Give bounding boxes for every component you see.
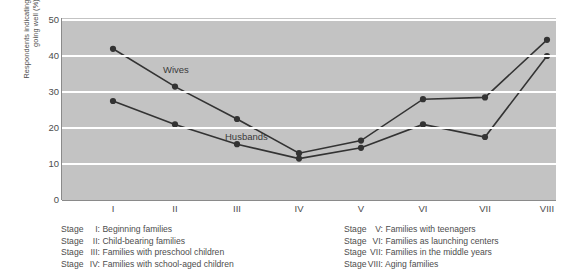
data-point-husbands-IV (296, 156, 302, 162)
y-axis-title-line1: Respondents indicating marriage (22, 0, 31, 79)
caption-line-II: StageII: Child-bearing families (61, 236, 234, 248)
gridline-20 (62, 127, 556, 129)
caption-column-left: StageI: Beginning familiesStageII: Child… (61, 224, 234, 270)
caption-stage-text: Aging families (383, 259, 438, 269)
data-point-wives-III (234, 116, 240, 122)
caption-stage-text: Beginning families (100, 224, 172, 234)
caption-stage-numeral: II: (78, 236, 100, 248)
caption-line-III: StageIII: Families with preschool childr… (61, 247, 234, 259)
caption-line-VI: StageVI: Families as launching centers (344, 236, 499, 248)
series-label-wives: Wives (163, 64, 189, 75)
data-point-wives-II (172, 84, 178, 90)
caption-line-IV: StageIV: Families with school-aged child… (61, 259, 234, 271)
data-point-wives-VIII (544, 37, 550, 43)
caption-stage-word: Stage (61, 259, 78, 271)
gridline-40 (62, 55, 556, 57)
x-tick-VIII: VIII (527, 203, 567, 214)
gridline-10 (62, 163, 556, 165)
caption-stage-word: Stage (344, 236, 361, 248)
data-point-wives-VII (482, 94, 488, 100)
chart-caption: StageI: Beginning familiesStageII: Child… (0, 224, 571, 278)
caption-stage-word: Stage (344, 247, 361, 259)
y-tick-30: 30 (37, 87, 59, 97)
caption-stage-word: Stage (61, 247, 78, 259)
data-point-wives-V (358, 138, 364, 144)
caption-stage-text: Families with school-aged children (100, 259, 234, 269)
gridline-30 (62, 91, 556, 93)
y-tick-20: 20 (37, 123, 59, 133)
caption-stage-word: Stage (344, 259, 361, 271)
y-tick-10: 10 (37, 159, 59, 169)
caption-column-right: StageV: Families with teenagersStageVI: … (344, 224, 499, 270)
x-tick-I: I (93, 203, 133, 214)
data-point-husbands-III (234, 141, 240, 147)
data-point-wives-I (110, 46, 116, 52)
caption-stage-numeral: VI: (361, 236, 383, 248)
data-point-wives-IV (296, 150, 302, 156)
y-tick-50: 50 (37, 15, 59, 25)
data-point-husbands-VII (482, 134, 488, 140)
caption-stage-text: Families as launching centers (383, 236, 499, 246)
caption-line-V: StageV: Families with teenagers (344, 224, 499, 236)
data-point-husbands-V (358, 145, 364, 151)
y-axis-tick-labels: 01020304050 (33, 0, 59, 210)
plot-area: WivesHusbands (62, 18, 556, 200)
caption-line-VII: StageVII: Families in the middle years (344, 247, 499, 259)
caption-stage-text: Families in the middle years (383, 247, 492, 257)
caption-stage-text: Families with teenagers (383, 224, 476, 234)
caption-stage-numeral: VIII: (361, 259, 383, 271)
x-tick-III: III (217, 203, 257, 214)
y-tick-40: 40 (37, 51, 59, 61)
chart-figure: Respondents indicating marriagegoing wel… (0, 0, 571, 278)
x-tick-VII: VII (465, 203, 505, 214)
x-tick-II: II (155, 203, 195, 214)
caption-stage-word: Stage (61, 236, 78, 248)
y-tick-0: 0 (37, 195, 59, 205)
caption-stage-text: Families with preschool children (100, 247, 224, 257)
caption-stage-word: Stage (344, 224, 361, 236)
x-tick-IV: IV (279, 203, 319, 214)
x-tick-VI: VI (403, 203, 443, 214)
caption-stage-numeral: I: (78, 224, 100, 236)
series-label-husbands: Husbands (225, 131, 268, 142)
caption-stage-numeral: VII: (361, 247, 383, 259)
caption-stage-numeral: IV: (78, 259, 100, 271)
x-axis-line (62, 200, 556, 201)
gridline-50 (62, 19, 556, 21)
series-lines-and-markers (62, 18, 556, 200)
caption-stage-text: Child-bearing families (100, 236, 185, 246)
x-axis-tick-labels: IIIIIIIVVVIVIIVIII (62, 203, 556, 217)
data-point-wives-VI (420, 96, 426, 102)
x-tick-V: V (341, 203, 381, 214)
caption-stage-numeral: III: (78, 247, 100, 259)
data-point-husbands-I (110, 98, 116, 104)
caption-line-I: StageI: Beginning families (61, 224, 234, 236)
caption-stage-word: Stage (61, 224, 78, 236)
caption-stage-numeral: V: (361, 224, 383, 236)
caption-line-VIII: StageVIII: Aging families (344, 259, 499, 271)
